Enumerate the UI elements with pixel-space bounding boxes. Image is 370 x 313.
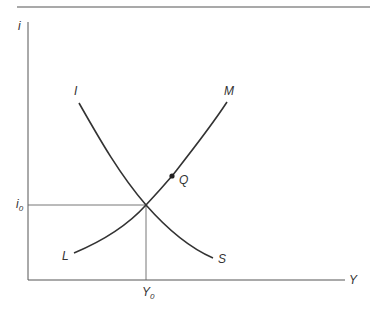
x-axis-label: Y: [349, 273, 358, 287]
is-end-label: S: [218, 252, 226, 266]
is-lm-diagram: i Y i0 Y0 I S L M Q: [0, 0, 370, 313]
lm-end-label: M: [224, 84, 234, 98]
point-q-label: Q: [179, 173, 188, 187]
point-q-marker: [169, 173, 174, 178]
i0-label: i0: [16, 197, 24, 213]
is-start-label: I: [74, 84, 78, 98]
y-axis-label: i: [18, 19, 21, 33]
lm-curve: [74, 102, 227, 253]
y0-label: Y0: [142, 285, 155, 301]
lm-start-label: L: [62, 249, 69, 263]
